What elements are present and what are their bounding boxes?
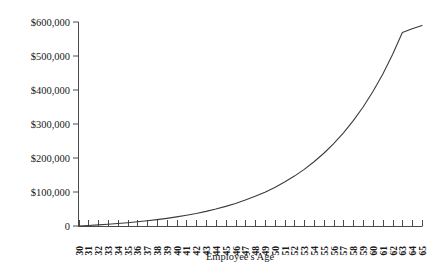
data-series-line: [79, 25, 423, 226]
y-tick-label: $600,000: [31, 17, 70, 28]
y-tick-label: 0: [65, 221, 70, 232]
x-tick-label: 65: [418, 246, 428, 256]
y-tick-label: $200,000: [31, 153, 70, 164]
x-tick-label: 39: [163, 246, 173, 256]
x-tick-marks: [80, 220, 423, 227]
x-tick-label: 31: [84, 246, 94, 256]
x-tick-label: 42: [192, 246, 202, 256]
y-tick-label: $500,000: [31, 51, 70, 62]
chart-page: $600,000 $500,000 $400,000 $300,000 $200…: [0, 0, 446, 274]
x-tick-label: 59: [359, 246, 369, 256]
x-tick-label: 37: [143, 246, 153, 256]
x-tick-label: 41: [182, 246, 192, 256]
y-tick-labels: $600,000 $500,000 $400,000 $300,000 $200…: [31, 17, 70, 232]
x-tick-label: 57: [339, 246, 349, 256]
y-tick-marks: [73, 22, 79, 226]
x-tick-label: 32: [94, 246, 104, 256]
x-tick-label: 54: [310, 246, 320, 256]
x-tick-label: 60: [369, 246, 379, 256]
x-tick-label: 64: [408, 246, 418, 256]
x-axis-title: Employee's Age: [206, 251, 274, 262]
x-tick-label: 53: [300, 246, 310, 256]
x-tick-label: 36: [133, 246, 143, 256]
x-tick-label: 58: [349, 246, 359, 256]
y-axis-group: $600,000 $500,000 $400,000 $300,000 $200…: [31, 17, 79, 232]
y-tick-label: $400,000: [31, 85, 70, 96]
x-tick-label: 52: [290, 246, 300, 256]
x-tick-label: 63: [398, 246, 408, 256]
x-tick-label: 38: [153, 246, 163, 256]
x-tick-label: 34: [114, 246, 124, 256]
exponential-growth-line-chart: $600,000 $500,000 $400,000 $300,000 $200…: [0, 0, 446, 274]
x-tick-label: 33: [104, 246, 114, 256]
x-tick-label: 61: [379, 246, 389, 256]
y-tick-label: $100,000: [31, 187, 70, 198]
x-tick-label: 55: [320, 246, 330, 256]
x-axis-group: 3031323334353637383940414243444546474849…: [75, 220, 428, 262]
y-tick-label: $300,000: [31, 119, 70, 130]
